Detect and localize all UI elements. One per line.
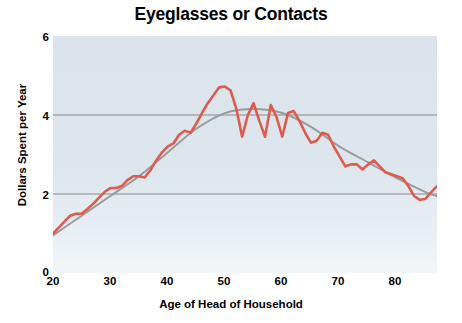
y-tick-4: 4 (9, 110, 49, 122)
plot-svg (53, 36, 437, 273)
x-tick-70: 70 (318, 275, 358, 287)
x-tick-60: 60 (261, 275, 301, 287)
chart-title: Eyeglasses or Contacts (0, 4, 462, 25)
x-tick-40: 40 (147, 275, 187, 287)
x-tick-80: 80 (375, 275, 415, 287)
x-tick-20: 20 (33, 275, 73, 287)
x-axis-label: Age of Head of Household (0, 298, 462, 310)
x-tick-30: 30 (90, 275, 130, 287)
plot-area (53, 36, 437, 273)
y-axis-label: Dollars Spent per Year (16, 45, 28, 245)
y-tick-2: 2 (9, 189, 49, 201)
chart-figure: Eyeglasses or Contacts 6 4 2 0 Dollars S… (0, 0, 462, 323)
x-tick-50: 50 (204, 275, 244, 287)
y-tick-6: 6 (9, 31, 49, 43)
